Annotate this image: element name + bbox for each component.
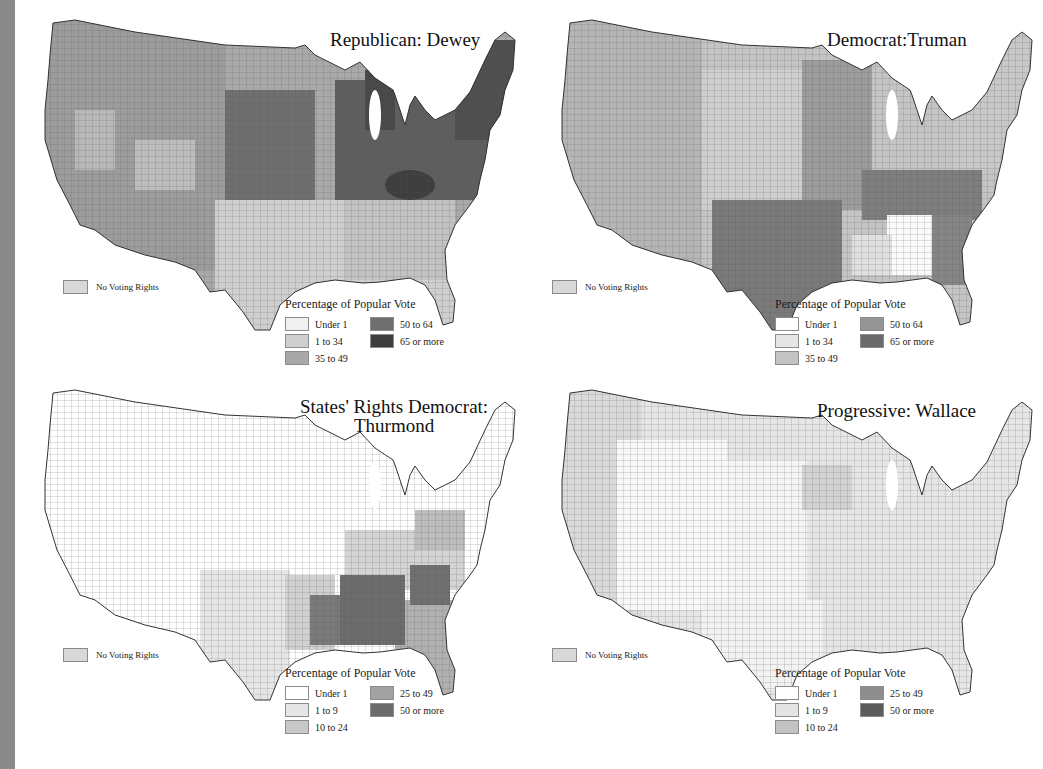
legend-label: Under 1 bbox=[805, 688, 855, 699]
legend-swatch bbox=[860, 317, 884, 331]
percentage-legend-truman: Percentage of Popular Vote Under 1 50 to… bbox=[775, 297, 975, 365]
legend-label: Under 1 bbox=[805, 319, 855, 330]
legend-label: Under 1 bbox=[315, 319, 365, 330]
no-voting-rights-legend: No Voting Rights bbox=[63, 280, 159, 294]
no-voting-rights-swatch bbox=[63, 280, 88, 294]
no-voting-rights-swatch bbox=[552, 648, 577, 662]
percentage-legend-wallace: Percentage of Popular Vote Under 1 25 to… bbox=[775, 666, 975, 734]
legend-swatch bbox=[775, 703, 799, 717]
legend-label: 35 to 49 bbox=[315, 353, 365, 364]
map-panel-thurmond: States' Rights Democrat: Thurmond No Vot… bbox=[15, 385, 525, 765]
legend-swatch bbox=[775, 334, 799, 348]
no-voting-rights-label: No Voting Rights bbox=[585, 282, 648, 292]
legend-label: Under 1 bbox=[315, 688, 365, 699]
legend-title: Percentage of Popular Vote bbox=[775, 297, 975, 312]
legend-label: 65 or more bbox=[400, 336, 470, 347]
map-title-dewey: Republican: Dewey bbox=[330, 30, 480, 49]
map-panel-dewey: Republican: Dewey No Voting Rights Perce… bbox=[15, 0, 525, 380]
no-voting-rights-label: No Voting Rights bbox=[96, 650, 159, 660]
legend-swatch bbox=[775, 686, 799, 700]
left-edge-strip bbox=[0, 0, 15, 769]
legend-label: 1 to 34 bbox=[315, 336, 365, 347]
legend-label: 25 to 49 bbox=[400, 688, 470, 699]
legend-label: 50 to 64 bbox=[400, 319, 470, 330]
percentage-legend-thurmond: Percentage of Popular Vote Under 1 25 to… bbox=[285, 666, 485, 734]
percentage-legend-dewey: Percentage of Popular Vote Under 1 50 to… bbox=[285, 297, 485, 365]
legend-swatch bbox=[285, 703, 309, 717]
legend-title: Percentage of Popular Vote bbox=[285, 666, 485, 681]
legend-swatch bbox=[370, 686, 394, 700]
legend-swatch bbox=[860, 334, 884, 348]
legend-label: 10 to 24 bbox=[805, 722, 855, 733]
no-voting-rights-swatch bbox=[63, 648, 88, 662]
legend-label: 10 to 24 bbox=[315, 722, 365, 733]
map-title-wallace: Progressive: Wallace bbox=[817, 401, 976, 420]
legend-swatch bbox=[285, 351, 309, 365]
legend-label: 50 to 64 bbox=[890, 319, 960, 330]
no-voting-rights-swatch bbox=[552, 280, 577, 294]
legend-swatch bbox=[775, 317, 799, 331]
legend-title: Percentage of Popular Vote bbox=[285, 297, 485, 312]
legend-swatch bbox=[285, 317, 309, 331]
map-title-thurmond: States' Rights Democrat: Thurmond bbox=[300, 397, 488, 435]
legend-label: 35 to 49 bbox=[805, 353, 855, 364]
legend-label: 50 or more bbox=[400, 705, 470, 716]
legend-swatch bbox=[370, 317, 394, 331]
legend-title: Percentage of Popular Vote bbox=[775, 666, 975, 681]
map-panel-wallace: Progressive: Wallace No Voting Rights Pe… bbox=[532, 385, 1042, 765]
legend-swatch bbox=[370, 334, 394, 348]
no-voting-rights-label: No Voting Rights bbox=[96, 282, 159, 292]
legend-swatch bbox=[775, 720, 799, 734]
no-voting-rights-legend: No Voting Rights bbox=[552, 648, 648, 662]
legend-label: 1 to 34 bbox=[805, 336, 855, 347]
map-title-truman: Democrat:Truman bbox=[827, 30, 967, 49]
map-title-thurmond-line2: Thurmond bbox=[300, 416, 488, 435]
legend-label: 1 to 9 bbox=[805, 705, 855, 716]
legend-label: 1 to 9 bbox=[315, 705, 365, 716]
legend-swatch bbox=[860, 686, 884, 700]
legend-swatch bbox=[285, 686, 309, 700]
legend-swatch bbox=[285, 334, 309, 348]
map-panel-truman: Democrat:Truman No Voting Rights Percent… bbox=[532, 0, 1042, 380]
legend-label: 25 to 49 bbox=[890, 688, 960, 699]
legend-swatch bbox=[285, 720, 309, 734]
no-voting-rights-label: No Voting Rights bbox=[585, 650, 648, 660]
legend-swatch bbox=[775, 351, 799, 365]
no-voting-rights-legend: No Voting Rights bbox=[63, 648, 159, 662]
legend-label: 65 or more bbox=[890, 336, 960, 347]
legend-swatch bbox=[860, 703, 884, 717]
map-title-thurmond-line1: States' Rights Democrat: bbox=[300, 397, 488, 416]
legend-label: 50 or more bbox=[890, 705, 960, 716]
legend-swatch bbox=[370, 703, 394, 717]
no-voting-rights-legend: No Voting Rights bbox=[552, 280, 648, 294]
